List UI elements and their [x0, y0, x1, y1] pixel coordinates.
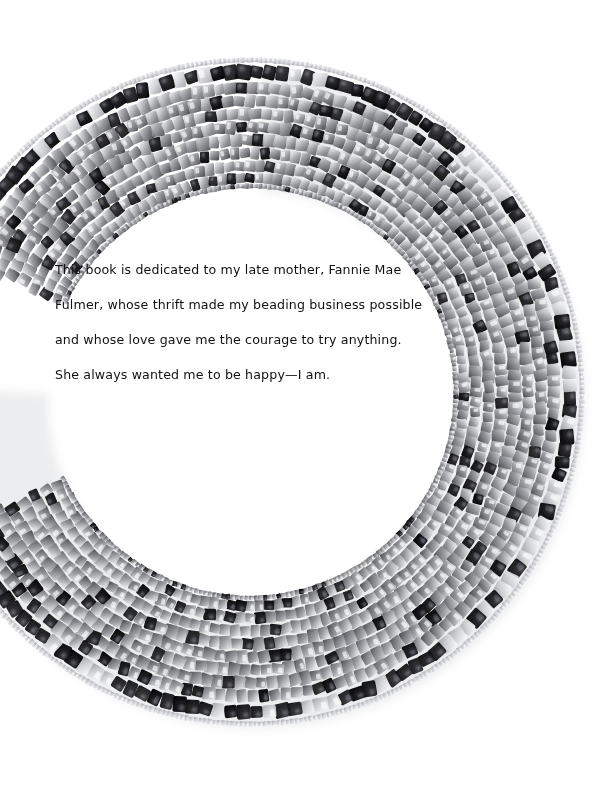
bead [140, 170, 154, 184]
bead-highlight [175, 686, 182, 693]
bead [343, 98, 358, 113]
bead [395, 530, 403, 538]
bead [136, 702, 141, 707]
bead [437, 465, 445, 473]
bead-highlight [488, 160, 491, 163]
bead [159, 162, 173, 175]
bead-highlight [518, 195, 521, 198]
bead [375, 227, 383, 235]
bead [242, 676, 257, 690]
bead [280, 593, 286, 598]
bead [404, 208, 420, 224]
bead-highlight [572, 468, 575, 470]
bead [340, 659, 355, 674]
bead [250, 146, 261, 160]
bead [134, 114, 151, 129]
bead-highlight [89, 206, 96, 213]
bead [308, 586, 313, 591]
bead-highlight [286, 653, 290, 659]
bead [226, 599, 238, 611]
bead-highlight [170, 581, 172, 583]
bead-highlight [209, 691, 214, 698]
bead [311, 681, 326, 695]
bead [289, 60, 295, 66]
bead [271, 109, 284, 121]
bead [360, 86, 378, 104]
bead [47, 563, 65, 581]
bead-highlight [122, 139, 128, 146]
bead [448, 435, 454, 441]
bead [315, 116, 327, 130]
bead [102, 536, 109, 543]
bead-highlight [487, 404, 493, 408]
bead [361, 147, 378, 165]
bead-highlight [155, 679, 160, 685]
bead-highlight [334, 626, 341, 634]
bead-highlight [194, 63, 196, 66]
bead [505, 180, 512, 187]
bead-highlight [483, 300, 490, 306]
bead [226, 594, 231, 600]
bead-highlight [138, 618, 144, 625]
bead [216, 593, 222, 598]
bead [153, 621, 169, 635]
bead [391, 688, 397, 694]
bead [211, 703, 225, 719]
bead [520, 536, 540, 556]
bead [59, 229, 76, 246]
bead [88, 567, 104, 583]
bead [230, 134, 242, 147]
bead-highlight [264, 66, 270, 74]
bead-highlight [133, 562, 136, 565]
bead [535, 381, 547, 392]
bead [0, 203, 14, 220]
bead [257, 82, 271, 95]
bead [180, 584, 186, 590]
bead [317, 185, 327, 197]
bead-highlight [404, 97, 406, 100]
bead-highlight [474, 388, 480, 392]
bead-highlight [235, 162, 239, 167]
bead [415, 103, 421, 109]
bead [290, 85, 304, 99]
bead [33, 179, 51, 197]
bead [0, 606, 2, 613]
bead [502, 286, 519, 302]
bead-highlight [427, 567, 434, 574]
bead [157, 708, 164, 715]
bead [442, 173, 457, 189]
bead [457, 580, 473, 595]
dedication-line-1: This book is dedicated to my late mother… [55, 252, 475, 287]
bead [406, 540, 422, 556]
bead [189, 62, 194, 68]
bead [400, 532, 413, 545]
bead [426, 494, 442, 510]
bead [86, 102, 105, 121]
bead [255, 160, 265, 172]
bead [387, 690, 392, 696]
bead [223, 161, 236, 173]
bead [317, 64, 323, 70]
bead [321, 65, 328, 72]
bead [4, 553, 23, 572]
bead [460, 233, 477, 250]
bead [15, 626, 22, 633]
bead [441, 538, 457, 554]
bead [42, 613, 59, 629]
bead [245, 601, 256, 612]
bead [150, 646, 166, 663]
bead-highlight [427, 495, 430, 498]
bead-highlight [435, 115, 438, 118]
bead [224, 687, 237, 703]
bead [330, 662, 344, 677]
bead [299, 618, 312, 631]
bead [451, 201, 469, 218]
bead [232, 675, 246, 691]
bead [55, 196, 72, 212]
bead [388, 634, 405, 652]
bead [563, 379, 578, 393]
bead [563, 289, 570, 296]
bead [496, 467, 509, 481]
bead [479, 349, 493, 364]
bead [487, 159, 493, 165]
